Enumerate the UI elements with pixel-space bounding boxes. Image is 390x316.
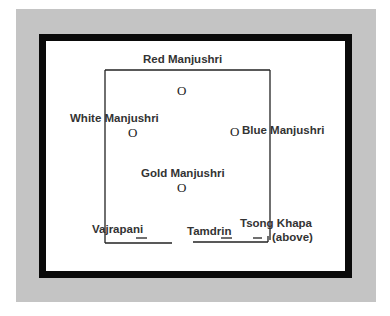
label-gold-manjushri: Gold Manjushri [141,168,225,180]
label-tamdrin: Tamdrin [187,226,232,238]
label-red-manjushri: Red Manjushri [143,54,222,66]
label-tsong-khapa: Tsong Khapa [240,218,312,230]
label-tsong-khapa-above: (above) [272,232,313,244]
marker-red-manjushri: O [177,84,186,97]
marker-blue-manjushri: O [230,125,239,138]
label-white-manjushri: White Manjushri [70,113,159,125]
label-blue-manjushri: Blue Manjushri [242,125,324,137]
label-vajrapani: Vajrapani [92,224,143,236]
marker-gold-manjushri: O [177,181,186,194]
room-outline [0,0,390,316]
marker-white-manjushri: O [128,126,137,139]
